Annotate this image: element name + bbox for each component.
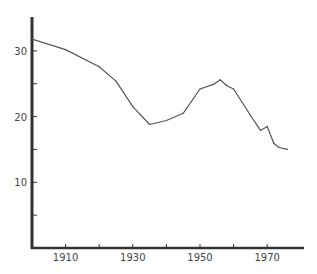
data-point bbox=[65, 49, 66, 50]
data-point bbox=[166, 120, 167, 121]
x-tick-label: 1950 bbox=[187, 252, 212, 263]
y-tick-label: 10 bbox=[14, 177, 27, 188]
x-tick-label: 1930 bbox=[120, 252, 145, 263]
data-point bbox=[250, 115, 251, 116]
data-point bbox=[287, 149, 288, 150]
data-point bbox=[226, 85, 227, 86]
x-tick-label: 1910 bbox=[53, 252, 78, 263]
data-point bbox=[278, 147, 279, 148]
data-point bbox=[149, 124, 150, 125]
data-point bbox=[99, 66, 100, 67]
y-tick-label: 30 bbox=[14, 46, 27, 57]
data-point bbox=[31, 38, 32, 39]
data-point bbox=[233, 88, 234, 89]
data-point bbox=[115, 81, 116, 82]
line-chart: 102030 1910193019501970 bbox=[0, 0, 317, 274]
x-tick-label: 1970 bbox=[254, 252, 279, 263]
data-point bbox=[132, 106, 133, 107]
y-tick-label: 20 bbox=[14, 112, 27, 123]
data-point bbox=[183, 113, 184, 114]
data-point bbox=[273, 143, 274, 144]
data-point bbox=[220, 79, 221, 80]
data-point bbox=[199, 88, 200, 89]
data-point bbox=[267, 126, 268, 127]
series-line bbox=[32, 39, 287, 149]
data-point bbox=[260, 130, 261, 131]
data-point bbox=[213, 84, 214, 85]
